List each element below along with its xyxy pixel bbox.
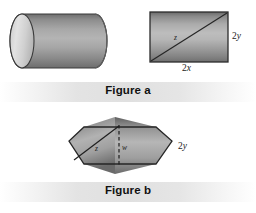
cylinder-shape [10, 14, 107, 68]
hexagon-left-face [69, 117, 115, 174]
rect-width-label: 2x [182, 63, 191, 73]
rect-height-label: 2y [232, 31, 241, 41]
rectangle-shape [150, 12, 228, 62]
figure-b-group: z w 2y Figure b [0, 108, 256, 213]
cylinder-left-cap [10, 14, 34, 68]
hexagon-shape [69, 117, 172, 174]
hexagon-diagonal-label: z [95, 144, 98, 153]
figure-b-caption: Figure b [0, 184, 256, 196]
hexagon-center-label: w [122, 143, 127, 152]
figure-a-caption: Figure a [0, 84, 256, 96]
hexagon-height-label: 2y [178, 141, 187, 151]
figure-a-group: 2y 2x z Figure a [0, 0, 256, 108]
rect-diagonal-label: z [174, 33, 177, 42]
